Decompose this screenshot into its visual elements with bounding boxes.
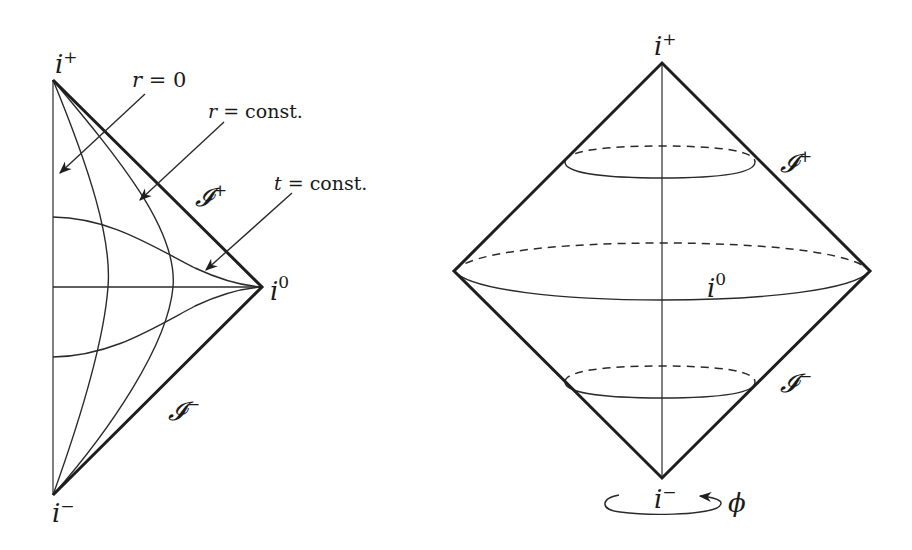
- label-i-plus-right: i+: [654, 29, 677, 61]
- label-scri-minus-right: 𝓘−: [780, 366, 812, 398]
- t-const-curve-upper: [53, 217, 262, 287]
- label-i-zero-left: i0: [270, 272, 289, 306]
- right-penrose-diagram: i+ 𝓘+ i0 𝓘− i− ϕ: [454, 29, 870, 518]
- label-i-minus-left: i−: [52, 496, 75, 528]
- label-i-zero-right: i0: [707, 269, 726, 303]
- label-i-plus-left: i+: [55, 47, 78, 79]
- label-i-minus-right: i−: [654, 482, 677, 514]
- label-phi: ϕ: [728, 488, 746, 518]
- label-scri-minus-left: 𝓘−: [168, 394, 200, 426]
- label-t-const: t = const.: [274, 172, 367, 194]
- lower-ellipse-front: [565, 382, 755, 398]
- t-const-pointer-arrow: [206, 193, 292, 270]
- upper-ellipse-front: [565, 162, 755, 178]
- r-zero-pointer-arrow: [60, 94, 145, 173]
- label-scri-plus-left: 𝓘+: [195, 180, 227, 212]
- lower-ellipse-back: [565, 366, 755, 382]
- label-scri-plus-right: 𝓘+: [780, 146, 812, 178]
- left-penrose-diagram: i+ r = 0 r = const. t = const. 𝓘+ i0 𝓘− …: [52, 47, 367, 528]
- penrose-figure: i+ r = 0 r = const. t = const. 𝓘+ i0 𝓘− …: [0, 0, 912, 550]
- label-r-const: r = const.: [208, 100, 303, 122]
- upper-ellipse-back: [565, 146, 755, 162]
- label-r-zero: r = 0: [132, 68, 186, 92]
- t-const-curve-lower: [53, 287, 262, 357]
